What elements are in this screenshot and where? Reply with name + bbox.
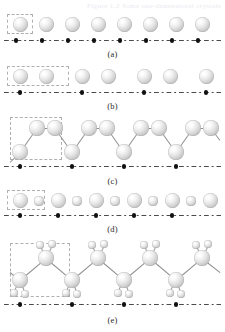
atom-e-20 — [166, 289, 174, 297]
atom-e-2 — [64, 272, 80, 288]
figure-canvas: Figure 1.2 Some one-dimensional crystals… — [0, 0, 225, 332]
atom-e-3 — [90, 250, 106, 266]
atom-e-14 — [88, 241, 96, 249]
atom-e-13 — [73, 290, 81, 298]
atom-e-22 — [192, 241, 200, 249]
panel-label-e: (e) — [0, 315, 225, 325]
atom-e-17 — [125, 290, 133, 298]
atom-e-6 — [168, 272, 184, 288]
atom-e-18 — [140, 241, 148, 249]
atom-e-16 — [114, 289, 122, 297]
atom-e-15 — [100, 240, 108, 248]
atom-e-23 — [204, 240, 212, 248]
lattice-point-e-1 — [70, 302, 75, 307]
atom-e-5 — [142, 250, 158, 266]
atom-e-19 — [152, 240, 160, 248]
lattice-line-e — [4, 304, 221, 305]
atom-e-1 — [38, 250, 54, 266]
lattice-point-e-0 — [18, 302, 23, 307]
atom-e-21 — [177, 290, 185, 298]
lattice-point-e-2 — [122, 302, 127, 307]
atom-e-4 — [116, 272, 132, 288]
atom-e-0 — [12, 272, 28, 288]
atom-e-7 — [194, 250, 210, 266]
panel-e: (e) — [0, 0, 225, 332]
lattice-point-e-3 — [174, 302, 179, 307]
